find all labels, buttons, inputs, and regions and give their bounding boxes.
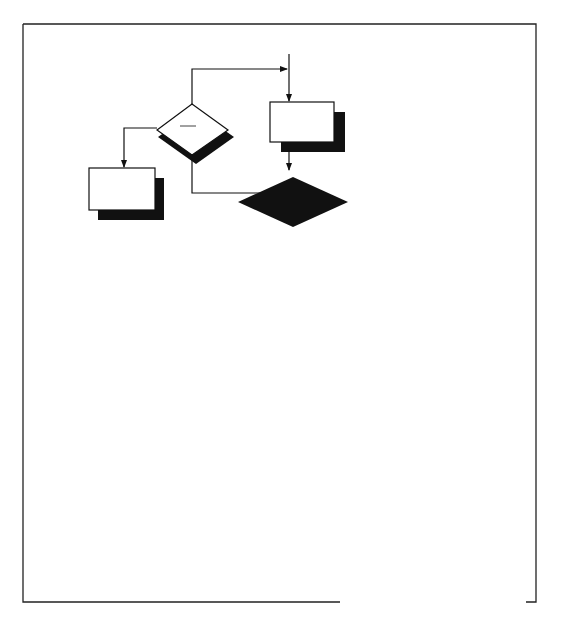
- rdre-no-connector: [192, 158, 274, 193]
- rdre-decision-diamond: [238, 171, 348, 227]
- dcd-decision-diamond: [157, 104, 234, 164]
- read-status-box: [270, 102, 345, 152]
- dcd-no-connector: [124, 128, 157, 167]
- loss-of-carrier-box: [89, 168, 164, 220]
- receive-subroutine-flowchart: [0, 0, 561, 630]
